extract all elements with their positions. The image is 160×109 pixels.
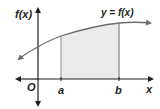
- bound-right-label: b: [115, 84, 122, 96]
- area-under-curve-diagram: f(x) y = f(x) O a b x: [0, 0, 160, 109]
- curve-label: y = f(x): [100, 7, 134, 18]
- origin-label: O: [27, 81, 36, 93]
- curve-f-of-x-left: [19, 47, 38, 59]
- x-axis-label: x: [145, 83, 153, 95]
- bound-left-label: a: [58, 84, 64, 96]
- y-axis-label: f(x): [15, 8, 32, 20]
- shaded-area-region: [61, 23, 119, 79]
